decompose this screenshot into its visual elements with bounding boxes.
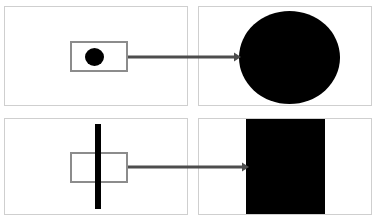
diagram-figure (0, 0, 380, 223)
panel-top-left-input (4, 6, 188, 106)
panel-top-right-output (198, 6, 372, 106)
panel-bottom-left-input (4, 118, 188, 215)
panel-bottom-right-output (198, 118, 372, 215)
